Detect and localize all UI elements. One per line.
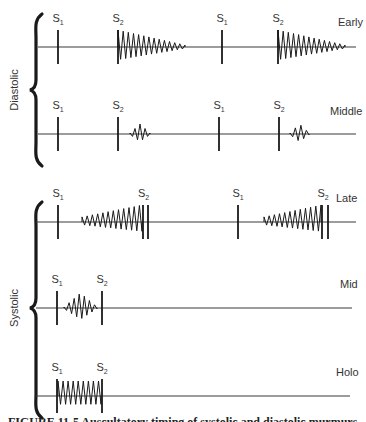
figure-caption: FIGURE 11-5 Auscultatory timing of systo… <box>8 413 366 422</box>
murmur-row-early: EarlyS1S2S1S2 <box>38 12 364 64</box>
s1-label: S1 <box>213 99 224 113</box>
s1-label: S1 <box>51 361 62 375</box>
murmur-waveform <box>264 205 321 231</box>
s2-label: S2 <box>273 99 284 113</box>
murmur-row-mid: MidS1S2 <box>36 273 358 325</box>
s2-label: S2 <box>138 187 149 201</box>
murmur-waveform <box>64 294 97 318</box>
murmur-waveform <box>278 30 345 59</box>
row-label: Early <box>338 16 364 28</box>
row-label: Holo <box>336 366 359 378</box>
row-label: Mid <box>340 278 358 290</box>
group-label: Diastolic <box>8 69 20 111</box>
s1-label: S1 <box>232 187 243 201</box>
group-label: Systolic <box>8 289 20 327</box>
s1-label: S1 <box>216 12 227 26</box>
group-systolic: SystolicLateS1S2S1S2MidS1S2HoloS1S2 <box>8 187 359 418</box>
murmur-waveform <box>290 125 309 140</box>
s1-label: S1 <box>52 187 63 201</box>
murmur-row-middle: MiddleS1S2S1S2 <box>38 99 362 151</box>
murmur-waveform <box>58 381 101 404</box>
row-label: Middle <box>330 105 362 117</box>
s1-label: S1 <box>52 12 63 26</box>
curly-brace <box>30 202 42 418</box>
murmur-waveform <box>130 124 150 140</box>
s2-label: S2 <box>96 273 107 287</box>
s2-label: S2 <box>317 187 328 201</box>
murmur-timing-diagram: DiastolicEarlyS1S2S1S2MiddleS1S2S1S2Syst… <box>0 0 366 422</box>
murmur-row-holo: HoloS1S2 <box>36 361 359 413</box>
s1-label: S1 <box>51 273 62 287</box>
s2-label: S2 <box>96 361 107 375</box>
curly-brace <box>30 14 42 166</box>
row-label: Late <box>336 192 357 204</box>
murmur-waveform <box>82 206 142 232</box>
s2-label: S2 <box>112 12 123 26</box>
murmur-waveform <box>118 30 185 59</box>
murmur-row-late: LateS1S2S1S2 <box>36 187 357 239</box>
s2-label: S2 <box>272 12 283 26</box>
group-diastolic: DiastolicEarlyS1S2S1S2MiddleS1S2S1S2 <box>8 12 364 166</box>
s1-label: S1 <box>52 99 63 113</box>
s2-label: S2 <box>112 99 123 113</box>
